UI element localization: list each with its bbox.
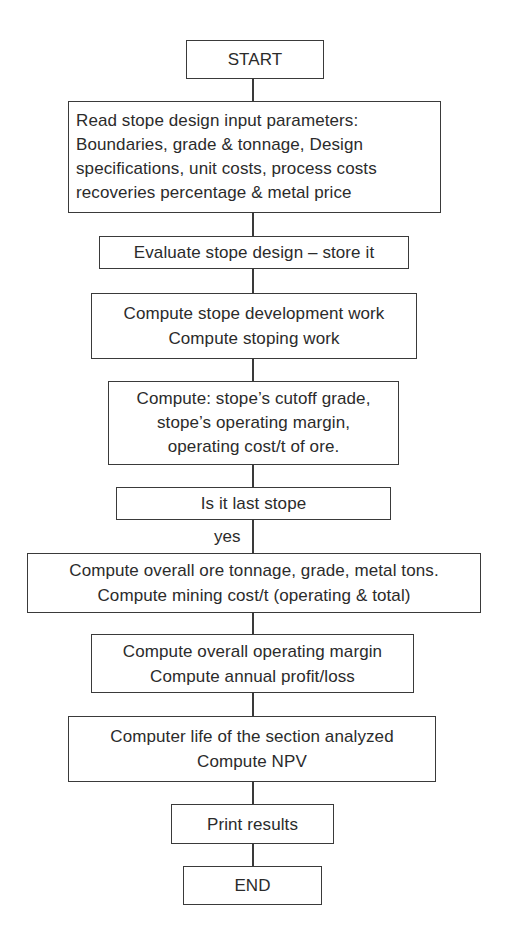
compute-work-line-1: Compute stope development work: [124, 301, 385, 326]
connector-overall-margin: [252, 613, 254, 634]
compute-overall-line-2: Compute mining cost/t (operating & total…: [97, 583, 410, 608]
read-params-line-3: specifications, unit costs, process cost…: [76, 157, 377, 181]
compute-npv-line-1: Computer life of the section analyzed: [110, 724, 393, 749]
connector-read-evaluate: [252, 213, 254, 236]
evaluate-line-1: Evaluate stope design – store it: [134, 241, 374, 264]
print-results-node: Print results: [171, 804, 334, 844]
connector-print-end: [252, 844, 254, 866]
connector-npv-print: [252, 782, 254, 804]
start-node: START: [186, 40, 324, 79]
read-params-line-1: Read stope design input parameters:: [76, 109, 358, 133]
compute-cutoff-line-3: operating cost/t of ore.: [168, 435, 340, 459]
decision-line-1: Is it last stope: [201, 492, 307, 515]
connector-start-read: [252, 79, 254, 101]
start-label: START: [228, 48, 283, 71]
connector-work-cutoff: [252, 359, 254, 381]
read-parameters-node: Read stope design input parameters: Boun…: [68, 101, 441, 213]
compute-work-node: Compute stope development work Compute s…: [91, 293, 417, 359]
read-params-line-4: recoveries percentage & metal price: [76, 181, 352, 205]
compute-cutoff-node: Compute: stope’s cutoff grade, stope’s o…: [108, 381, 399, 465]
read-params-line-2: Boundaries, grade & tonnage, Design: [76, 133, 363, 157]
compute-npv-line-2: Compute NPV: [197, 749, 307, 774]
last-stope-decision-node: Is it last stope: [116, 487, 391, 520]
yes-branch-label: yes: [214, 527, 240, 547]
connector-cutoff-decision: [252, 465, 254, 487]
compute-work-line-2: Compute stoping work: [168, 326, 339, 351]
end-label: END: [234, 874, 270, 897]
connector-margin-npv: [252, 693, 254, 716]
compute-margin-line-2: Compute annual profit/loss: [150, 664, 355, 689]
compute-overall-node: Compute overall ore tonnage, grade, meta…: [27, 553, 481, 613]
print-label: Print results: [207, 813, 298, 836]
compute-cutoff-line-2: stope’s operating margin,: [157, 411, 350, 435]
compute-overall-line-1: Compute overall ore tonnage, grade, meta…: [69, 558, 438, 583]
connector-evaluate-work: [252, 269, 254, 293]
compute-npv-node: Computer life of the section analyzed Co…: [68, 716, 436, 782]
compute-margin-node: Compute overall operating margin Compute…: [91, 634, 414, 693]
connector-decision-overall: [252, 520, 254, 553]
end-node: END: [183, 866, 322, 905]
compute-margin-line-1: Compute overall operating margin: [123, 639, 382, 664]
evaluate-design-node: Evaluate stope design – store it: [99, 236, 409, 269]
compute-cutoff-line-1: Compute: stope’s cutoff grade,: [137, 387, 371, 411]
